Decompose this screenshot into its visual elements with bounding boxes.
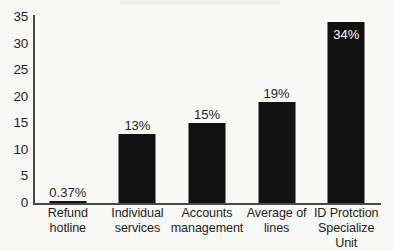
bar-value-label: 13% [124, 119, 150, 132]
y-tick-label: 30 [2, 37, 28, 51]
y-tick-label: 15 [2, 116, 28, 130]
bar-slot: 15% [172, 17, 242, 203]
y-tick-label: 20 [2, 90, 28, 104]
bar-slot: 0.37% [33, 17, 103, 203]
y-tick-label: 35 [2, 10, 28, 24]
bar-slot: 19% [242, 17, 312, 203]
bar-series: 0.37%13%15%19%34% [33, 17, 381, 203]
bar-value-label: 19% [264, 87, 290, 100]
y-tick-label: 0 [2, 196, 28, 210]
bar[interactable] [258, 102, 295, 203]
bar-slot: 13% [103, 17, 173, 203]
bar[interactable] [119, 134, 156, 203]
cropped-title-artifact [120, 1, 280, 4]
bar-value-label: 0.37% [49, 186, 86, 199]
bar[interactable] [328, 22, 365, 203]
category-label: ID ProtctionSpecialize Unit [305, 206, 387, 251]
category-label-line: ID Protction [305, 206, 387, 221]
x-axis-category-labels: RefundhotlineIndividualservicesAccountsm… [33, 206, 381, 245]
category-label-line: Specialize Unit [305, 221, 387, 251]
bar-slot: 34% [311, 17, 381, 203]
x-axis-line [33, 203, 381, 205]
bar[interactable] [49, 201, 86, 204]
bar-value-label: 15% [194, 108, 220, 121]
y-tick-label: 25 [2, 63, 28, 77]
bar-value-label: 34% [333, 28, 359, 41]
bar[interactable] [188, 123, 225, 203]
y-tick-label: 5 [2, 169, 28, 183]
y-tick-label: 10 [2, 143, 28, 157]
